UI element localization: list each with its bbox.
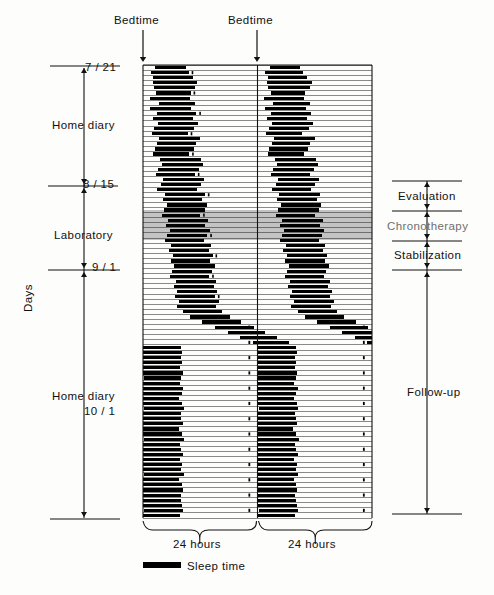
sleep-bar [165,193,205,196]
sleep-bar [287,254,327,257]
sleep-bar [158,168,199,171]
sleep-bar [269,147,308,150]
date-tick-label-0: 7 / 21 [85,61,116,73]
sleep-bar [143,463,182,466]
sleep-bar [157,112,197,115]
sleep-bar [258,432,297,435]
arrow-head [81,512,87,517]
sleep-bar [215,326,254,329]
sleep-bar [258,422,297,425]
sleep-bar [143,514,180,517]
sleep-bar [258,478,294,481]
nap-tick [248,478,250,481]
sleep-bar [280,239,319,242]
sleep-bar [143,402,182,405]
sleep-bar [143,387,183,390]
sleep-bar [144,509,183,512]
sleep-bar [258,412,296,415]
arrow-head [424,508,430,513]
sleep-bar [158,122,199,125]
sleep-bar [258,453,298,456]
sleep-bar [155,147,194,150]
phase-label-home-diary-1: Home diary [52,119,115,131]
sleep-bar [170,229,210,232]
sleep-bar [258,473,298,476]
sleep-bar [190,315,230,318]
nap-tick [363,341,365,344]
nap-tick [363,356,365,359]
sleep-bar [173,254,213,257]
sleep-bar [279,193,319,196]
nap-tick [194,91,196,94]
sleep-bar [162,163,203,166]
arrow-head [424,204,430,209]
sleep-bar [294,300,334,303]
sleep-bar [273,168,314,171]
sleep-bar [168,219,209,222]
nap-tick [363,371,365,374]
nap-tick [198,173,200,176]
nap-tick [192,152,194,155]
sleep-bar [278,178,319,181]
sleep-bar [157,142,196,145]
sleep-bar [143,382,180,385]
sleep-bar [165,239,204,242]
sleep-bar [167,203,207,206]
sleep-bar [153,76,192,79]
sleep-bar [258,366,295,369]
sleep-bar [259,509,298,512]
sleep-bar [280,224,320,227]
sleep-bar [240,336,276,339]
right-phase-label-evaluation: Evaluation [398,190,456,202]
phase-label-home-diary-2: Home diary [52,390,115,402]
sleep-bar [258,438,298,441]
nap-tick [212,275,214,278]
actogram-canvas [0,0,494,595]
sleep-bar [156,91,190,94]
nap-tick [248,326,250,329]
sleep-bar [143,468,181,471]
sleep-bar [172,270,212,273]
nap-tick [363,432,365,435]
brace-path [259,521,373,538]
sleep-bar [330,326,369,329]
nap-tick [363,509,365,512]
sleep-bar [161,183,201,186]
sleep-bar [272,142,311,145]
sleep-bar [282,234,322,237]
sleep-bar [275,158,316,161]
nap-tick [248,463,250,466]
sleep-bar [143,346,181,349]
arrow-head [254,57,260,62]
nap-tick [191,132,193,135]
nap-tick [248,494,250,497]
phase-label-laboratory: Laboratory [54,229,113,241]
sleep-bar [258,448,296,451]
arrow-head [81,263,87,268]
sleep-bar [258,371,298,374]
nap-tick [199,112,201,115]
legend-swatch-sleep-bar [143,562,181,568]
arrow-head [424,242,430,247]
sleep-bar [272,188,312,191]
sleep-bar [175,295,215,298]
sleep-bar [143,478,179,481]
arrow-head [424,182,430,187]
sleep-bar [267,117,307,120]
bedtime-label-right: Bedtime [228,14,273,26]
sleep-bar [160,158,201,161]
sleep-bar [174,264,214,267]
sleep-bar [367,341,372,344]
sleep-bar [258,417,296,420]
sleep-bar [268,152,304,155]
legend-label: Sleep time [187,560,245,572]
sleep-bar [271,112,311,115]
sleep-bar [271,173,310,176]
sleep-bar [143,432,182,435]
sleep-bar [265,107,306,110]
sleep-bar [292,290,332,293]
sleep-bar [264,97,304,100]
nap-tick [248,448,250,451]
sleep-bar [253,341,289,344]
nap-tick [363,463,365,466]
